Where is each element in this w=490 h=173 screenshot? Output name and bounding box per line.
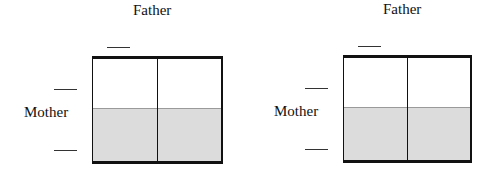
punnett-square-2: Father Mother bbox=[245, 0, 490, 173]
punnett-grid bbox=[92, 56, 223, 164]
father-allele-blank[interactable] bbox=[107, 47, 130, 48]
mother-allele-blank-2[interactable] bbox=[305, 149, 328, 150]
mother-allele-blank-2[interactable] bbox=[54, 150, 77, 151]
mother-allele-blank-1[interactable] bbox=[305, 88, 328, 89]
father-label: Father bbox=[133, 3, 171, 18]
grid-divider bbox=[157, 59, 158, 161]
father-label: Father bbox=[383, 2, 421, 17]
father-allele-blank[interactable] bbox=[358, 46, 381, 47]
grid-divider bbox=[407, 58, 408, 160]
mother-label: Mother bbox=[24, 105, 68, 120]
mother-label: Mother bbox=[274, 104, 318, 119]
punnett-grid bbox=[343, 55, 472, 163]
mother-allele-blank-1[interactable] bbox=[54, 89, 77, 90]
punnett-square-1: Father Mother bbox=[0, 0, 245, 173]
